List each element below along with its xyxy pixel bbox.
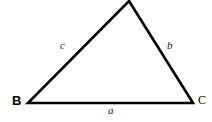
side-label-a: a (108, 105, 114, 116)
triangle-outline (28, 1, 193, 103)
side-label-b: b (167, 40, 173, 51)
vertex-label-c: C (198, 94, 206, 106)
side-label-c: c (60, 40, 65, 51)
vertex-label-b: B (12, 94, 21, 107)
triangle-figure: B C c b a (0, 0, 212, 122)
triangle-shape (0, 0, 212, 122)
